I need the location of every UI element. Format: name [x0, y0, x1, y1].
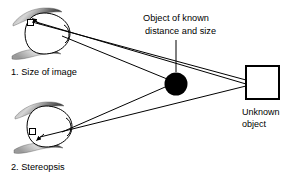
eye-bottom-globe: [27, 106, 72, 147]
label-known-object-line1: Object of known: [143, 13, 209, 23]
eye-bottom-retinal-image-square: [30, 129, 36, 135]
known-object-dot: [165, 73, 188, 96]
diagram-canvas: 1. Size of image 2. Stereopsis: [0, 0, 291, 177]
label-known-object-line2: distance and size: [145, 26, 216, 36]
eye-bottom: [14, 102, 72, 153]
eye-top: [12, 8, 70, 59]
label-unknown-object-line1: Unknown: [242, 107, 280, 117]
depth-perception-diagram: 1. Size of image 2. Stereopsis: [0, 0, 291, 177]
label-unknown-object-line2: object: [242, 119, 267, 129]
label-cue-1: 1. Size of image: [11, 67, 77, 77]
label-cue-2: 2. Stereopsis: [11, 162, 65, 172]
ray-top-eye-to-known-object: [62, 36, 172, 81]
unknown-object-square: [246, 66, 279, 99]
ray-bottom-eye-to-unknown: [40, 86, 246, 137]
